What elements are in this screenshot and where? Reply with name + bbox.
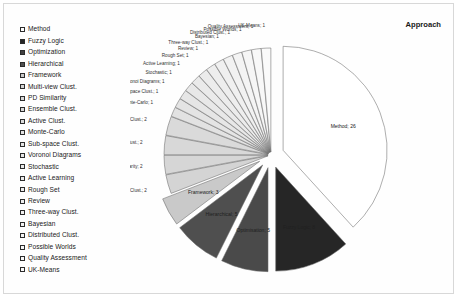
legend-swatch-icon xyxy=(20,107,25,112)
legend-item-label: Framework xyxy=(28,72,61,79)
legend-swatch-icon xyxy=(20,187,25,192)
legend-item[interactable]: Ensemble Clust. xyxy=(20,104,130,115)
legend-swatch-icon xyxy=(20,27,25,32)
legend-swatch-icon xyxy=(20,130,25,135)
pie-slice-label: Review; 1 xyxy=(178,46,199,51)
legend-item-label: Review xyxy=(28,198,50,205)
legend-swatch-icon xyxy=(20,245,25,250)
pie-slice-label: Active Clust.; 2 xyxy=(130,117,147,122)
pie-slice-label: Bayesian; 1 xyxy=(195,34,219,39)
legend-item[interactable]: Bayesian xyxy=(20,218,130,229)
legend-item-label: Active Learning xyxy=(28,175,74,182)
pie-slice-label: Method; 26 xyxy=(331,123,356,129)
legend-item-label: Quality Assessment xyxy=(28,255,87,262)
legend-item[interactable]: Rough Set xyxy=(20,184,130,195)
legend-item-label: Three-way Clust. xyxy=(28,209,79,216)
legend-item[interactable]: UK-Means xyxy=(20,264,130,275)
legend-swatch-icon xyxy=(20,96,25,101)
legend-item-label: Active Clust. xyxy=(28,118,65,125)
legend-item[interactable]: Monte-Carlo xyxy=(20,127,130,138)
legend-swatch-icon xyxy=(20,153,25,158)
legend-item-label: Bayesian xyxy=(28,221,56,228)
legend-item[interactable]: PD Similarity xyxy=(20,93,130,104)
legend-item[interactable]: Fuzzy Logic xyxy=(20,35,130,46)
legend-item[interactable]: Three-way Clust. xyxy=(20,207,130,218)
pie-slice-label: Ensemble Clust.; 2 xyxy=(130,140,143,145)
legend-item-label: Fuzzy Logic xyxy=(28,38,64,45)
legend-swatch-icon xyxy=(20,199,25,204)
legend-item[interactable]: Multi-view Clust. xyxy=(20,81,130,92)
legend-item[interactable]: Review xyxy=(20,196,130,207)
legend-item[interactable]: Method xyxy=(20,24,130,35)
legend-swatch-icon xyxy=(20,62,25,67)
pie-slice-label: PD Similarity; 2 xyxy=(130,164,143,169)
pie-slice-label: Rough Set; 1 xyxy=(162,53,189,58)
legend-swatch-icon xyxy=(20,164,25,169)
legend: MethodFuzzy LogicOptimizationHierarchica… xyxy=(20,24,130,276)
legend-swatch-icon xyxy=(20,39,25,44)
legend-swatch-icon xyxy=(20,142,25,147)
pie-slice-label: Voronoi Diagrams; 1 xyxy=(130,79,165,84)
legend-swatch-icon xyxy=(20,267,25,272)
legend-item[interactable]: Framework xyxy=(20,70,130,81)
legend-item-label: Monte-Carlo xyxy=(28,129,65,136)
legend-item-label: Stochastic xyxy=(28,164,59,171)
legend-swatch-icon xyxy=(20,210,25,215)
legend-item-label: Hierarchical xyxy=(28,61,63,68)
legend-item[interactable]: Quality Assessment xyxy=(20,253,130,264)
legend-item[interactable]: Active Learning xyxy=(20,173,130,184)
legend-item-label: Rough Set xyxy=(28,187,60,194)
legend-item[interactable]: Voronoi Diagrams xyxy=(20,150,130,161)
legend-swatch-icon xyxy=(20,84,25,89)
pie-slice-label: Monte-Carlo; 1 xyxy=(130,100,153,105)
pie-slice-label: Three-way Clust.; 1 xyxy=(168,40,208,45)
legend-item[interactable]: Hierarchical xyxy=(20,58,130,69)
legend-item[interactable]: Active Clust. xyxy=(20,116,130,127)
legend-swatch-icon xyxy=(20,119,25,124)
legend-item[interactable]: Sub-space Clust. xyxy=(20,138,130,149)
legend-item-label: Voronoi Diagrams xyxy=(28,152,81,159)
legend-swatch-icon xyxy=(20,176,25,181)
pie-slice-label: Stochastic; 1 xyxy=(145,70,172,75)
legend-item-label: UK-Means xyxy=(28,267,60,274)
pie-slice-label: Optimisation; 5 xyxy=(237,227,271,233)
pie-chart-svg: Method; 26Fuzzy Logic; 8Optimisation; 5H… xyxy=(130,3,454,294)
legend-item[interactable]: Possible Worlds xyxy=(20,241,130,252)
legend-swatch-icon xyxy=(20,233,25,238)
legend-item-label: Optimization xyxy=(28,49,65,56)
legend-item[interactable]: Optimization xyxy=(20,47,130,58)
pie-slice-label: Framework; 3 xyxy=(188,189,219,195)
legend-swatch-icon xyxy=(20,50,25,55)
legend-item[interactable]: Distributed Clust. xyxy=(20,230,130,241)
pie-slice-label: UK-Means; 1 xyxy=(238,23,265,28)
legend-item[interactable]: Stochastic xyxy=(20,161,130,172)
legend-swatch-icon xyxy=(20,222,25,227)
pie-slice-label: Active Learning; 1 xyxy=(143,61,180,66)
legend-swatch-icon xyxy=(20,256,25,261)
pie-slice-label: Fuzzy Logic; 8 xyxy=(283,224,315,230)
legend-item-label: Sub-space Clust. xyxy=(28,141,79,148)
legend-item-label: Method xyxy=(28,26,50,33)
pie-slice-label: Sub-space Clust.; 1 xyxy=(130,89,159,94)
legend-item-label: Possible Worlds xyxy=(28,244,76,251)
legend-item-label: Distributed Clust. xyxy=(28,232,79,239)
pie-slice-label: Hierarchical; 5 xyxy=(206,211,238,217)
legend-item-label: Multi-view Clust. xyxy=(28,84,77,91)
pie-chart: Method; 26Fuzzy Logic; 8Optimisation; 5H… xyxy=(130,3,454,294)
pie-slice-label: Multi-view Clust.; 2 xyxy=(130,188,147,193)
legend-swatch-icon xyxy=(20,73,25,78)
legend-item-label: Ensemble Clust. xyxy=(28,106,77,113)
legend-item-label: PD Similarity xyxy=(28,95,66,102)
